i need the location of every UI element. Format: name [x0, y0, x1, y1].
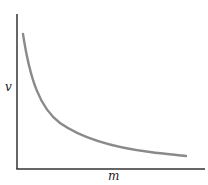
x-axis-label: m: [108, 170, 119, 182]
chart-plot: [0, 0, 208, 185]
y-axis-label: v: [5, 81, 12, 93]
data-curve: [23, 34, 186, 156]
